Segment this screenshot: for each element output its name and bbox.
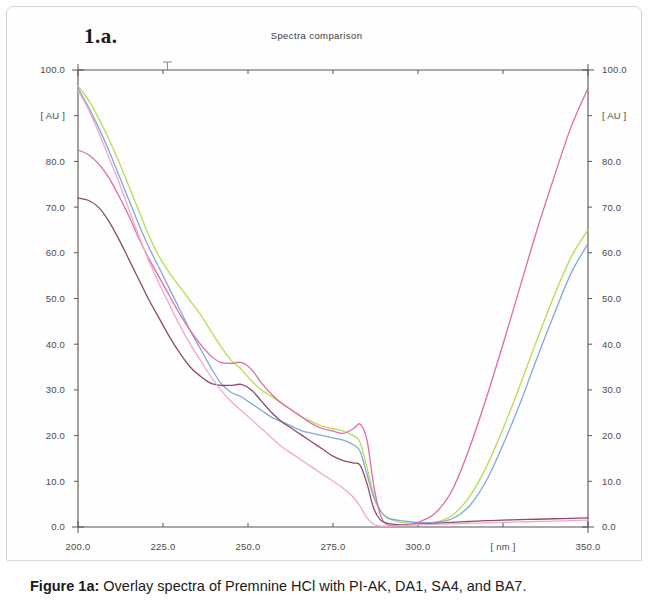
spectrum-light-pink xyxy=(78,91,588,527)
right-axis-tick-label: 10.0 xyxy=(602,476,621,487)
y-axis-tick-label: [ AU ] xyxy=(41,110,65,121)
figure-caption-label: Figure 1a: xyxy=(30,578,99,594)
y-axis-tick-label: 80.0 xyxy=(46,156,65,167)
right-axis-tick-label: [ AU ] xyxy=(602,110,626,121)
right-axis-tick-label: 0.0 xyxy=(602,521,616,532)
tick-label-layer: 100.0100.0[ AU ][ AU ]80.080.070.070.060… xyxy=(40,64,627,552)
right-axis-tick-label: 50.0 xyxy=(602,293,621,304)
right-axis-tick-label: 40.0 xyxy=(602,339,621,350)
right-axis-tick-label: 70.0 xyxy=(602,202,621,213)
y-axis-tick-label: 50.0 xyxy=(46,293,65,304)
curve-layer xyxy=(78,86,588,526)
y-axis-tick-label: 40.0 xyxy=(46,339,65,350)
y-axis-tick-label: 30.0 xyxy=(46,384,65,395)
y-axis-tick-label: 100.0 xyxy=(40,64,65,75)
x-axis-tick-label: 225.0 xyxy=(151,541,176,552)
x-axis-tick-label: 300.0 xyxy=(406,541,431,552)
spectrum-magenta xyxy=(78,88,588,526)
x-axis-tick-label: [ nm ] xyxy=(491,541,516,552)
axis-layer xyxy=(72,62,594,533)
x-axis-tick-label: 350.0 xyxy=(576,541,601,552)
y-axis-tick-label: 70.0 xyxy=(46,202,65,213)
caption-divider xyxy=(7,560,642,561)
spectrum-yellow-green xyxy=(78,86,588,524)
y-axis-tick-label: 20.0 xyxy=(46,430,65,441)
right-axis-tick-label: 80.0 xyxy=(602,156,621,167)
spectra-plot: 100.0100.0[ AU ][ AU ]80.080.070.070.060… xyxy=(0,0,649,560)
y-axis-tick-label: 0.0 xyxy=(51,521,65,532)
x-axis-tick-label: 250.0 xyxy=(236,541,261,552)
figure-container: 1.a. Spectra comparison 100.0100.0[ AU ]… xyxy=(0,0,649,607)
figure-caption-body: Overlay spectra of Premnine HCl with PI-… xyxy=(99,578,526,594)
top-axis-marker xyxy=(163,62,172,70)
x-axis-tick-label: 275.0 xyxy=(321,541,346,552)
spectra-chart-panel: 1.a. Spectra comparison 100.0100.0[ AU ]… xyxy=(0,0,649,560)
right-axis-tick-label: 30.0 xyxy=(602,384,621,395)
caption-bar: Figure 1a: Overlay spectra of Premnine H… xyxy=(0,560,649,607)
figure-caption: Figure 1a: Overlay spectra of Premnine H… xyxy=(30,577,635,595)
y-axis-tick-label: 10.0 xyxy=(46,476,65,487)
spectrum-blue xyxy=(78,88,588,522)
right-axis-tick-label: 60.0 xyxy=(602,247,621,258)
x-axis-tick-label: 200.0 xyxy=(66,541,91,552)
right-axis-tick-label: 100.0 xyxy=(602,64,627,75)
y-axis-tick-label: 60.0 xyxy=(46,247,65,258)
right-axis-tick-label: 20.0 xyxy=(602,430,621,441)
